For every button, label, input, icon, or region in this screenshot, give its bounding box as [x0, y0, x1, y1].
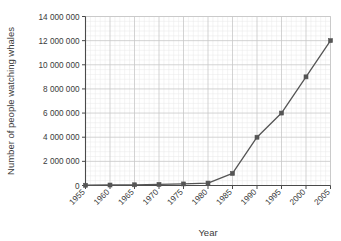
x-axis-title: Year — [198, 227, 217, 238]
data-point-marker — [182, 182, 186, 186]
y-axis-tick-label: 12 000 000 — [39, 37, 80, 46]
whale-watching-line-chart: 02 000 0004 000 0006 000 0008 000 00010 … — [0, 0, 341, 241]
x-axis-tick-label: 1970 — [141, 187, 161, 207]
y-axis-tick-label: 8 000 000 — [43, 85, 80, 94]
x-axis-tick-label: 1980 — [190, 187, 210, 207]
data-point-marker — [255, 135, 259, 139]
data-point-marker — [304, 75, 308, 79]
x-axis-tick-label: 2000 — [288, 187, 308, 207]
x-axis-tick-label: 1965 — [117, 187, 137, 207]
data-point-marker — [206, 181, 210, 185]
x-axis-tick-label: 1960 — [92, 187, 112, 207]
y-axis-tick-label: 4 000 000 — [43, 133, 80, 142]
x-axis-tick-label: 1995 — [264, 187, 284, 207]
y-axis-title: Number of people watching whales — [5, 27, 16, 175]
chart-canvas: 02 000 0004 000 0006 000 0008 000 00010 … — [0, 0, 341, 241]
data-point-marker — [329, 39, 333, 43]
y-axis-tick-label: 14 000 000 — [39, 13, 80, 22]
x-axis-tick-label: 1990 — [239, 187, 259, 207]
data-point-marker — [84, 183, 88, 187]
x-axis-tick-label: 2005 — [313, 187, 333, 207]
y-axis-tick-label: 2 000 000 — [43, 157, 80, 166]
x-axis-tick-label: 1975 — [166, 187, 186, 207]
data-point-marker — [108, 183, 112, 187]
data-point-marker — [157, 182, 161, 186]
data-point-marker — [280, 111, 284, 115]
x-axis-tick-label: 1985 — [215, 187, 235, 207]
data-point-marker — [231, 171, 235, 175]
y-axis-tick-label: 10 000 000 — [39, 61, 80, 70]
x-axis-tick-label: 1955 — [68, 187, 88, 207]
y-axis-tick-label: 6 000 000 — [43, 109, 80, 118]
data-point-marker — [133, 183, 137, 187]
